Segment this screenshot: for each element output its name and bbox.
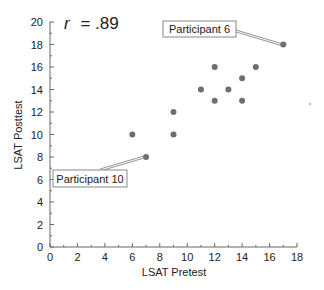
axes: 02468101214161802468101214161820	[31, 16, 303, 263]
y-axis-label: LSAT Posttest	[12, 100, 24, 169]
data-point	[225, 87, 231, 93]
x-tick-label: 0	[47, 251, 53, 263]
data-point	[212, 98, 218, 104]
x-tick-label: 12	[209, 251, 221, 263]
x-tick-label: 6	[129, 251, 135, 263]
callouts: Participant 6Participant 10	[53, 21, 281, 187]
x-tick-label: 10	[181, 251, 193, 263]
data-points	[129, 42, 286, 161]
x-tick-label: 2	[74, 251, 80, 263]
data-point	[253, 64, 259, 70]
data-point	[280, 42, 286, 48]
y-tick-label: 12	[31, 106, 43, 118]
y-tick-label: 8	[37, 151, 43, 163]
data-point	[143, 154, 149, 160]
scatter-chart: 02468101214161802468101214161820 Partici…	[0, 0, 324, 290]
data-point	[239, 75, 245, 81]
callout-label: Participant 10	[56, 173, 123, 185]
callout-leader	[100, 158, 144, 171]
y-tick-label: 6	[37, 174, 43, 186]
artifact-speck	[309, 103, 311, 105]
x-tick-label: 16	[263, 251, 275, 263]
callout-leader	[236, 30, 281, 44]
data-point	[171, 109, 177, 115]
y-tick-label: 10	[31, 129, 43, 141]
x-tick-label: 4	[102, 251, 108, 263]
y-tick-label: 14	[31, 84, 43, 96]
x-tick-label: 14	[236, 251, 248, 263]
data-point	[198, 87, 204, 93]
data-point	[129, 132, 135, 138]
data-point	[239, 98, 245, 104]
y-tick-label: 4	[37, 196, 43, 208]
x-axis-label: LSAT Pretest	[142, 266, 206, 278]
callout-leader	[100, 156, 144, 169]
y-tick-label: 2	[37, 219, 43, 231]
r-symbol: r	[64, 14, 71, 33]
callout-leader	[236, 32, 281, 46]
y-tick-label: 20	[31, 16, 43, 28]
y-tick-label: 18	[31, 39, 43, 51]
x-tick-label: 8	[157, 251, 163, 263]
correlation-annotation: r = .89	[64, 14, 119, 33]
r-value: = .89	[80, 14, 118, 33]
y-tick-label: 0	[37, 241, 43, 253]
data-point	[171, 132, 177, 138]
y-tick-label: 16	[31, 61, 43, 73]
x-tick-label: 18	[291, 251, 303, 263]
data-point	[212, 64, 218, 70]
callout-label: Participant 6	[169, 23, 230, 35]
